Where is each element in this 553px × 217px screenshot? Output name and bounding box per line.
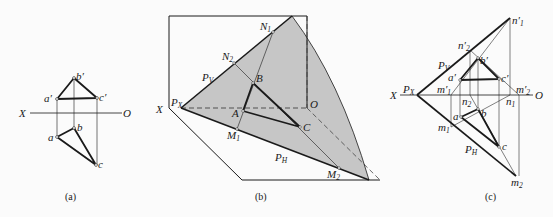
label-m2: M2 xyxy=(326,168,340,182)
label-x: X xyxy=(155,103,164,115)
panel-c: X O PX PV PH n′1 n′2 m′1 m′2 n2 n1 m1 m2… xyxy=(389,14,543,203)
label-m1: m1 xyxy=(438,121,450,135)
panel-a: X O b′ a′ c′ b a c (a) xyxy=(18,70,131,203)
label-a-c: a xyxy=(453,110,459,122)
trace-ph-c xyxy=(417,95,516,176)
label-b-c: b xyxy=(481,107,487,119)
label-b-point: B xyxy=(256,72,263,84)
caption-a: (a) xyxy=(65,191,76,203)
axis-label-o: O xyxy=(123,107,131,119)
triangle-top-view-c xyxy=(461,109,499,147)
label-px: PX xyxy=(170,96,183,110)
label-n1: N1 xyxy=(259,20,271,34)
label-n2: N2 xyxy=(221,50,233,64)
caption-c: (c) xyxy=(485,191,496,203)
label-a-prime-c: a′ xyxy=(448,71,457,83)
label-n2-prime: n′2 xyxy=(458,39,470,53)
label-n1: n1 xyxy=(506,95,515,109)
label-m2-prime: m′2 xyxy=(516,83,530,97)
label-pv: PV xyxy=(201,71,215,85)
trace-pv-c xyxy=(417,18,510,95)
axis-label-o-c: O xyxy=(535,89,543,101)
label-n1-prime: n′1 xyxy=(512,14,524,28)
label-px-c: PX xyxy=(402,83,415,97)
triangle-top-view xyxy=(57,128,96,165)
label-ph-c: PH xyxy=(464,143,478,157)
label-n2: n2 xyxy=(462,95,472,109)
label-c-prime-c: c′ xyxy=(501,72,509,84)
label-a-prime: a′ xyxy=(44,92,53,104)
panel-b: X PX PV PH N1 N2 M1 M2 B A C O (b) xyxy=(155,16,380,203)
label-a-point: A xyxy=(231,107,239,119)
label-m2: m2 xyxy=(511,176,523,190)
projection-figure: X O b′ a′ c′ b a c (a) X xyxy=(0,0,553,217)
label-b-prime: b′ xyxy=(76,70,85,82)
label-o: O xyxy=(310,98,318,110)
label-m1-prime: m′1 xyxy=(437,83,451,97)
label-a: a xyxy=(48,131,54,143)
label-c-point: C xyxy=(303,121,311,133)
label-c-prime: c′ xyxy=(99,91,107,103)
label-b-prime-c: b′ xyxy=(480,54,489,66)
label-c-c: c xyxy=(502,140,507,152)
label-c: c xyxy=(98,158,103,170)
axis-label-x: X xyxy=(18,107,27,119)
label-m1: M1 xyxy=(226,129,240,143)
caption-b: (b) xyxy=(255,191,267,203)
label-ph: PH xyxy=(274,151,288,165)
axis-label-x-c: X xyxy=(389,89,398,101)
label-b: b xyxy=(77,121,83,133)
